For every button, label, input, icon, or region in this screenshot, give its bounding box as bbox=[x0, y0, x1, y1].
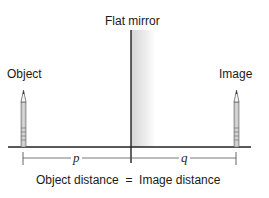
mirror-label: Flat mirror bbox=[105, 15, 160, 27]
mirror-shading bbox=[131, 30, 155, 147]
object-label: Object bbox=[7, 68, 42, 80]
object-pencil-icon bbox=[21, 90, 26, 147]
diagram-graphics bbox=[0, 0, 269, 198]
flat-mirror-diagram: Flat mirror Object Image p q Object dist… bbox=[0, 0, 269, 198]
image-distance-symbol: q bbox=[179, 151, 190, 164]
image-label: Image bbox=[219, 68, 252, 80]
object-distance-symbol: p bbox=[71, 151, 82, 164]
caption: Object distance = Image distance bbox=[36, 174, 220, 186]
image-pencil-icon bbox=[234, 90, 239, 147]
